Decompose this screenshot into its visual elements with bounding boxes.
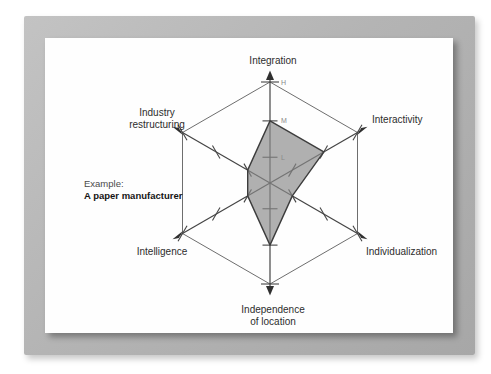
- page-frame: HMLIntegrationInteractivityIndividualiza…: [24, 16, 475, 355]
- axis-label-independence-of-location-line1: Independence: [241, 304, 305, 315]
- axis-label-industry-restructuring-line2: restructuring: [129, 119, 185, 130]
- axis-tick-m-individualization: [320, 208, 328, 221]
- radar-polygon: [248, 121, 324, 245]
- axis-label-individualization: Individualization: [366, 246, 437, 257]
- axis-label-independence-of-location-line2: of location: [250, 316, 296, 327]
- axis-arrow-icon: [266, 70, 274, 80]
- axis-arrow-icon: [266, 286, 274, 296]
- axis-label-integration: Integration: [249, 55, 296, 66]
- axis-tick-m-industry-restructuring: [212, 145, 220, 158]
- level-label-h: H: [281, 79, 286, 86]
- level-label-l: L: [281, 154, 285, 161]
- scanned-figure: HMLIntegrationInteractivityIndividualiza…: [0, 0, 491, 374]
- axis-label-intelligence: Intelligence: [137, 246, 188, 257]
- page: HMLIntegrationInteractivityIndividualiza…: [45, 38, 453, 333]
- level-label-m: M: [281, 117, 287, 124]
- axis-tick-m-intelligence: [212, 208, 220, 221]
- example-annotation: Example: A paper manufacturer: [84, 178, 224, 201]
- example-value: A paper manufacturer: [84, 190, 224, 202]
- axis-label-industry-restructuring-line1: Industry: [139, 107, 175, 118]
- example-label: Example:: [84, 178, 224, 190]
- axis-label-interactivity: Interactivity: [372, 114, 423, 125]
